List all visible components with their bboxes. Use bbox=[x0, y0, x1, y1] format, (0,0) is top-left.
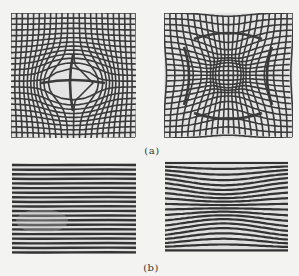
stripe-panel-wavy bbox=[165, 161, 288, 252]
distorted-grid-image bbox=[11, 13, 136, 138]
subfigure-label-b: (b) bbox=[131, 262, 171, 273]
grid-panel-center-distortion bbox=[11, 13, 136, 138]
grid-panel-edge-distortion bbox=[164, 13, 293, 138]
distorted-grid-image bbox=[164, 13, 293, 138]
subfigure-label-a: (a) bbox=[132, 145, 172, 156]
fringe-stripes-image bbox=[12, 163, 136, 254]
stripe-panel-straight bbox=[12, 163, 136, 254]
fringe-stripes-image bbox=[165, 161, 288, 252]
